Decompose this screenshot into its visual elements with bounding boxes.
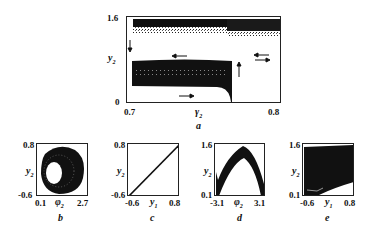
plot-c-xlabel: y1 — [150, 197, 157, 211]
plot-d-ylabel-sub: 2 — [208, 172, 211, 178]
plot-a-frame — [126, 16, 281, 103]
panel-label-c: c — [150, 213, 154, 223]
plot-e-ylabel-sub: 2 — [296, 172, 299, 178]
plot-e-xtick-max: 0.8 — [344, 199, 355, 208]
plot-c-ytick-max: 0.8 — [114, 141, 125, 150]
plot-e-ytick-max: 1.6 — [289, 141, 300, 150]
plot-a-xtick-max: 0.8 — [268, 108, 279, 117]
plot-a-xlabel: γ2 — [195, 107, 202, 121]
plot-c-ylabel: y2 — [117, 166, 124, 180]
plot-e-ytick-min: 0.1 — [289, 191, 300, 200]
plot-a-ylabel: y2 — [108, 53, 115, 67]
plot-e-xtick-min: -0.6 — [300, 199, 314, 208]
plot-e-ylabel: y2 — [292, 166, 299, 180]
plot-c-ylabel-sub: 2 — [121, 172, 124, 178]
panel-label-b: b — [58, 213, 63, 223]
plot-b-xtick-max: 2.7 — [77, 199, 88, 208]
plot-a-ytick-max: 1.6 — [107, 14, 118, 23]
plot-d-xlabel-sub: 2 — [240, 203, 243, 209]
plot-a-ylabel-sub: 2 — [112, 59, 115, 65]
plot-b-ylabel: y2 — [26, 166, 33, 180]
plot-c-data — [128, 144, 179, 196]
plot-d-frame — [214, 143, 265, 196]
plot-d-xlabel: φ2 — [234, 197, 243, 211]
panel-label-e: e — [325, 213, 329, 223]
plot-b-xtick-min: 0.1 — [35, 199, 46, 208]
plot-d-xtick-min: -3.1 — [210, 199, 224, 208]
plot-c-ytick-min: -0.6 — [111, 191, 125, 200]
plot-c-xtick-max: 0.8 — [169, 199, 180, 208]
plot-a-data — [127, 17, 281, 103]
plot-e-frame — [302, 143, 354, 196]
plot-b-ytick-max: 0.8 — [23, 141, 34, 150]
plot-a-ytick-min: 0 — [115, 98, 120, 107]
plot-e-data — [303, 144, 354, 196]
plot-e-xlabel-sub: 1 — [329, 203, 332, 209]
panel-label-d: d — [237, 213, 242, 223]
plot-b-xlabel-sub: 2 — [61, 203, 64, 209]
plot-b-xlabel: φ2 — [55, 197, 64, 211]
panel-label-a: a — [196, 121, 201, 131]
plot-b-data — [37, 144, 88, 196]
plot-b-ylabel-sub: 2 — [30, 172, 33, 178]
plot-b-frame — [36, 143, 88, 196]
plot-b-ytick-min: -0.6 — [18, 191, 32, 200]
plot-d-xtick-max: 3.1 — [254, 199, 265, 208]
plot-a-xtick-min: 0.7 — [124, 108, 135, 117]
plot-d-data — [215, 144, 265, 196]
plot-a-xlabel-sub: 2 — [199, 113, 202, 119]
plot-d-ylabel: y2 — [204, 166, 211, 180]
plot-d-ytick-max: 1.6 — [201, 141, 212, 150]
plot-e-xlabel: y1 — [325, 197, 332, 211]
plot-c-xlabel-sub: 1 — [154, 203, 157, 209]
plot-c-frame — [127, 143, 179, 196]
plot-c-xtick-min: -0.6 — [125, 199, 139, 208]
